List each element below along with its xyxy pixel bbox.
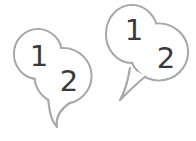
right-bubble-number-2: 2 [157,41,175,75]
speech-bubble-right: 1 2 [106,5,188,100]
speech-bubble-left: 1 2 [14,29,92,127]
left-bubble-tail [48,99,71,127]
speech-bubbles-svg: 1 2 1 2 [0,0,196,141]
speech-bubbles-illustration: 1 2 1 2 [0,0,196,141]
right-bubble-number-1: 1 [125,13,143,47]
left-bubble-number-2: 2 [60,64,78,98]
left-bubble-number-1: 1 [30,39,48,73]
